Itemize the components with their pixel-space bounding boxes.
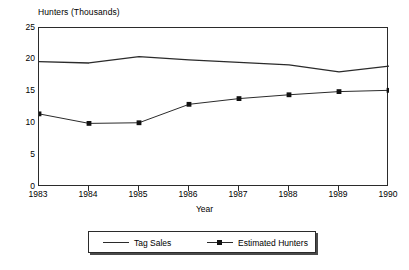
plot-area <box>38 27 388 186</box>
series-line-estimated-hunters <box>39 90 389 123</box>
legend-entry-estimated-hunters[interactable]: Estimated Hunters <box>207 232 308 254</box>
data-point-marker <box>87 121 92 126</box>
chart-legend: Tag Sales Estimated Hunters <box>88 231 316 253</box>
data-point-marker <box>337 89 342 94</box>
chart-figure: Hunters (Thousands) 0510152025 198319841… <box>0 0 409 270</box>
y-tick-label: 25 <box>11 22 35 32</box>
series-markers-estimated-hunters <box>39 88 389 126</box>
series-line-tag-sales <box>39 57 389 72</box>
legend-label: Estimated Hunters <box>238 238 308 248</box>
y-tick-label: 10 <box>11 117 35 127</box>
data-point-marker <box>287 92 292 97</box>
legend-entry-tag-sales[interactable]: Tag Sales <box>103 232 171 254</box>
data-point-marker <box>39 111 41 116</box>
x-tick-label: 1983 <box>18 189 58 199</box>
legend-swatch-line-marker-icon <box>207 238 233 248</box>
y-tick-label: 15 <box>11 85 35 95</box>
data-point-marker <box>187 102 192 107</box>
legend-swatch-line-icon <box>103 238 129 248</box>
y-tick-label: 5 <box>11 149 35 159</box>
data-point-marker <box>387 88 389 93</box>
y-tick-label: 20 <box>11 53 35 63</box>
x-tick-label: 1990 <box>368 189 408 199</box>
legend-label: Tag Sales <box>134 238 171 248</box>
y-axis-title: Hunters (Thousands) <box>38 7 120 17</box>
data-point-marker <box>137 120 142 125</box>
data-point-marker <box>237 96 242 101</box>
x-axis-title: Year <box>0 204 409 214</box>
plot-canvas <box>39 28 389 187</box>
